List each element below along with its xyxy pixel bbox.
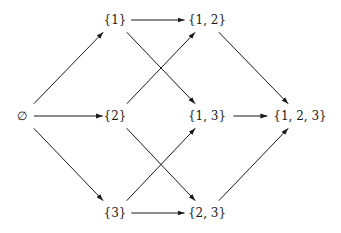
node-s13: {1, 3} [188,109,226,123]
hasse-diagram: ∅{1}{2}{3}{1, 2}{1, 3}{2, 3}{1, 2, 3} [0,0,341,233]
edge-s12-to-s123 [219,32,288,104]
edge-empty-to-s3 [34,128,103,200]
node-s1: {1} [104,13,127,27]
node-empty: ∅ [17,109,27,123]
edge-s23-to-s123 [219,128,288,200]
edge-empty-to-s1 [34,32,103,104]
node-s23: {2, 3} [188,206,226,220]
node-s2: {2} [104,109,127,123]
node-s12: {1, 2} [188,13,226,27]
node-s3: {3} [104,206,127,220]
edges [34,20,288,213]
node-s123: {1, 2, 3} [273,109,326,123]
